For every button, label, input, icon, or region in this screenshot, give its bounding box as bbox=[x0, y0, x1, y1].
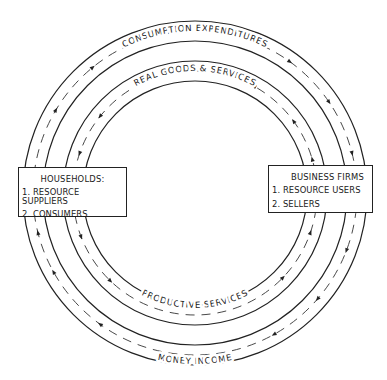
arrow-icon bbox=[290, 118, 296, 124]
productive-services-label: PRODUCTIVE SERVICES bbox=[140, 287, 249, 310]
arrow-icon bbox=[90, 64, 96, 70]
households-box: HOUSEHOLDS: 1. RESOURCE SUPPLIERS 2. CON… bbox=[18, 167, 127, 217]
arrow-icon bbox=[350, 151, 355, 157]
arrow-icon bbox=[344, 248, 349, 254]
firms-role-2: 2. SELLERS bbox=[269, 200, 372, 208]
arrow-icon bbox=[50, 269, 56, 275]
real-goods-services-label: REAL GOODS & SERVICES bbox=[132, 63, 258, 88]
firms-title: BUSINESS FIRMS bbox=[269, 166, 372, 181]
business-firms-box: BUSINESS FIRMS 1. RESOURCE USERS 2. SELL… bbox=[268, 165, 373, 213]
arrow-icon bbox=[53, 107, 59, 113]
households-title: HOUSEHOLDS: bbox=[19, 168, 126, 183]
firms-role-1: 1. RESOURCE USERS bbox=[269, 186, 372, 194]
arrow-icon bbox=[326, 99, 332, 105]
money-income-label: MONEY INCOME bbox=[157, 352, 233, 366]
arrow-icon bbox=[271, 332, 277, 338]
arrow-icon bbox=[308, 229, 313, 235]
households-role-1: 1. RESOURCE SUPPLIERS bbox=[19, 188, 126, 205]
households-role-2: 2. CONSUMERS bbox=[19, 210, 126, 218]
arrow-icon bbox=[310, 156, 315, 162]
arrow-icon bbox=[78, 234, 83, 240]
arrow-icon bbox=[107, 278, 113, 284]
arrow-icon bbox=[35, 230, 40, 236]
arrow-icon bbox=[77, 151, 82, 157]
